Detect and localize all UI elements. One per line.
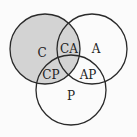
venn-diagram: C CA A CP AP P xyxy=(0,0,137,137)
label-ca: CA xyxy=(60,42,78,56)
label-c: C xyxy=(37,46,46,60)
label-cp: CP xyxy=(42,68,59,82)
label-p: P xyxy=(67,89,75,103)
label-ap: AP xyxy=(79,68,97,82)
label-a: A xyxy=(91,42,101,56)
